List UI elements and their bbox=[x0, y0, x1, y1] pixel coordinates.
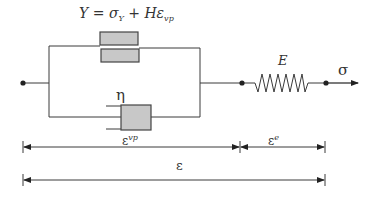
strain-vp-superscript: vp bbox=[128, 133, 138, 142]
friction-slider-element bbox=[100, 32, 139, 62]
strain-dimension-lines bbox=[23, 141, 325, 186]
left-terminal bbox=[20, 80, 49, 85]
viscosity-label: η bbox=[116, 86, 125, 104]
hardening-symbol: H bbox=[144, 5, 156, 21]
viscoplastic-strain-label: εvp bbox=[122, 133, 138, 148]
series-connection bbox=[200, 80, 255, 85]
epsilon-subscript: vp bbox=[164, 14, 174, 23]
spring-element bbox=[255, 74, 329, 92]
yield-stress-equation: Y = σY + Hεvp bbox=[79, 5, 174, 23]
plus-sign: + bbox=[124, 5, 145, 21]
rheological-diagram bbox=[0, 0, 375, 198]
elastic-strain-label: εe bbox=[268, 133, 279, 148]
stress-label: σ bbox=[338, 61, 348, 79]
total-strain-label: ε bbox=[176, 158, 183, 173]
epsilon-symbol: ε bbox=[157, 5, 165, 21]
equals-sign: = bbox=[88, 5, 109, 21]
yield-symbol: Y bbox=[79, 5, 88, 21]
strain-e-superscript: e bbox=[274, 133, 279, 142]
spring-modulus-label: E bbox=[278, 53, 288, 68]
